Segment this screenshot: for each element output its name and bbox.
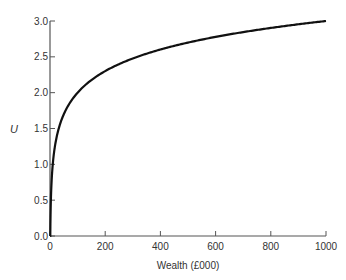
x-tick-label: 600 bbox=[207, 241, 224, 252]
y-tick-label: 0.0 bbox=[34, 231, 48, 242]
y-tick-label: 3.0 bbox=[34, 16, 48, 27]
y-tick-label: 1.0 bbox=[34, 159, 48, 170]
y-tick-label: 2.0 bbox=[34, 87, 48, 98]
x-tick-label: 1000 bbox=[315, 241, 338, 252]
x-tick-label: 200 bbox=[97, 241, 114, 252]
y-tick-label: 1.5 bbox=[34, 123, 48, 134]
ticks: 0.00.51.01.52.02.53.002004006008001000 bbox=[34, 16, 337, 253]
x-axis-label: Wealth (£000) bbox=[157, 260, 220, 271]
y-tick-label: 2.5 bbox=[34, 51, 48, 62]
x-tick-label: 800 bbox=[262, 241, 279, 252]
x-tick-label: 0 bbox=[47, 241, 53, 252]
utility-curve bbox=[50, 21, 326, 236]
x-tick-label: 400 bbox=[152, 241, 169, 252]
utility-chart: 0.00.51.01.52.02.53.002004006008001000 W… bbox=[0, 0, 346, 280]
y-tick-label: 0.5 bbox=[34, 195, 48, 206]
axes bbox=[50, 21, 326, 236]
y-axis-label: U bbox=[10, 123, 18, 135]
